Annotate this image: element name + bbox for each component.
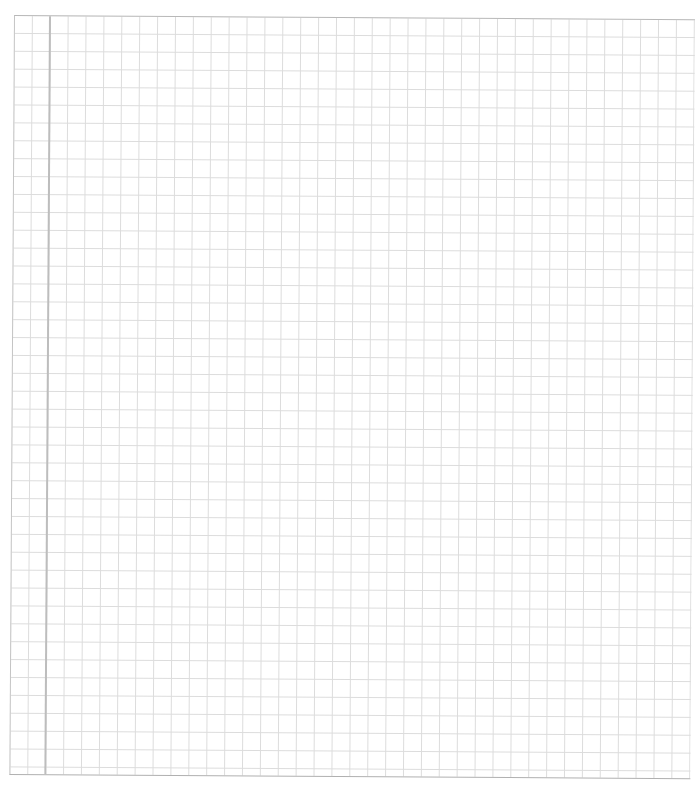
margin-line xyxy=(44,16,50,774)
graph-paper-sheet xyxy=(9,15,695,779)
